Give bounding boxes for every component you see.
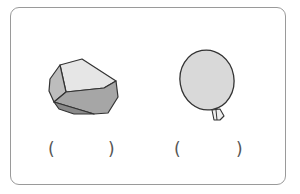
rock-icon [44, 55, 124, 121]
answer-open-paren-rock: ( [48, 139, 55, 159]
answer-open-paren-balloon: ( [174, 139, 181, 159]
balloon-icon [176, 46, 242, 128]
answer-close-paren-rock: ) [108, 139, 115, 159]
answer-close-paren-balloon: ) [236, 139, 243, 159]
